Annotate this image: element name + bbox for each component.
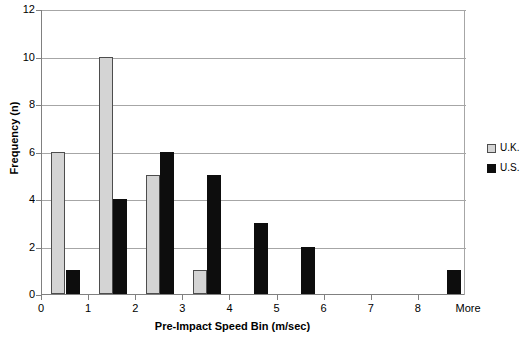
legend-item-uk: U.K. <box>487 143 519 153</box>
x-axis-tick-label: 5 <box>273 302 279 314</box>
bar-us <box>254 223 268 294</box>
legend-swatch-uk-icon <box>487 144 496 153</box>
y-axis-tick-label: 10 <box>23 52 35 63</box>
bar-uk <box>193 270 207 294</box>
bar-us <box>66 270 80 294</box>
x-axis-tick-mark <box>135 295 136 300</box>
bar-uk <box>99 57 113 295</box>
y-axis-tick-label: 2 <box>29 242 35 253</box>
x-axis-tick-mark <box>88 295 89 300</box>
x-axis-tick-label: 3 <box>179 302 185 314</box>
bar-uk <box>51 152 65 295</box>
bar-uk <box>146 175 160 294</box>
bar-us <box>160 152 174 295</box>
legend-swatch-us-icon <box>487 164 496 173</box>
x-axis-tick-label: 4 <box>226 302 232 314</box>
x-axis-tick-label: 6 <box>321 302 327 314</box>
x-axis-tick-mark <box>418 295 419 300</box>
grid-line <box>42 10 466 11</box>
bar-us <box>301 247 315 295</box>
legend-label-us: U.S. <box>500 163 519 173</box>
x-axis-tick-label: 2 <box>132 302 138 314</box>
legend-item-us: U.S. <box>487 163 519 173</box>
x-axis-tick-label: 7 <box>368 302 374 314</box>
y-axis-title: Frequency (n) <box>8 68 20 208</box>
x-axis-tick-mark <box>41 295 42 300</box>
legend: U.K. U.S. <box>487 143 519 183</box>
y-axis-tick-label: 12 <box>23 4 35 15</box>
x-axis-tick-label: 8 <box>415 302 421 314</box>
y-axis-tick-label: 4 <box>29 194 35 205</box>
y-axis-tick-label: 8 <box>29 99 35 110</box>
x-axis-tick-mark <box>229 295 230 300</box>
x-axis-tick-mark <box>277 295 278 300</box>
y-axis-tick-label: 6 <box>29 147 35 158</box>
bar-us <box>207 175 221 294</box>
plot-area <box>41 10 465 295</box>
x-axis-tick-label: 0 <box>38 302 44 314</box>
x-axis-tick-mark <box>371 295 372 300</box>
x-axis-tick-mark <box>182 295 183 300</box>
bar-us <box>447 270 461 294</box>
x-axis-tick-label: 1 <box>85 302 91 314</box>
x-axis-tick-mark <box>324 295 325 300</box>
legend-label-uk: U.K. <box>500 143 519 153</box>
x-axis-tick-label: More <box>455 302 480 314</box>
bar-chart: 024681012 Frequency (n) 012345678More Pr… <box>0 0 532 337</box>
x-axis-title: Pre-Impact Speed Bin (m/sec) <box>0 320 465 332</box>
y-axis-tick-label: 0 <box>29 289 35 300</box>
bar-us <box>113 199 127 294</box>
